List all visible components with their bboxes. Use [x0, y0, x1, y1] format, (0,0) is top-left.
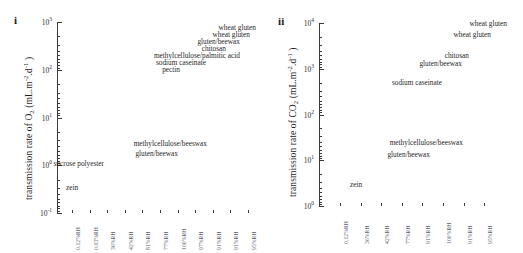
y-axis-tick-minor — [320, 91, 322, 92]
y-axis-tick-minor — [320, 62, 322, 63]
y-axis-tick-major — [320, 69, 324, 70]
y-axis-tick-minor — [320, 182, 322, 183]
x-axis-tick — [361, 203, 362, 206]
y-axis-tick-minor — [320, 142, 322, 143]
data-point-label: methylcellulose/beeswax — [134, 140, 207, 147]
y-axis-tick-minor — [320, 110, 322, 111]
y-axis-tick-major — [58, 22, 62, 23]
y-axis-tick-minor — [58, 202, 60, 203]
x-axis-tick-label: 95%RH — [251, 231, 257, 250]
y-axis-tick-minor — [320, 37, 322, 38]
x-axis-tick — [402, 203, 403, 206]
panel-co2-transmission: ii104103102101100transmission rate of CO… — [262, 0, 523, 253]
y-axis-tick-major — [320, 206, 324, 207]
y-axis-tick-minor — [58, 113, 60, 114]
y-axis-tick-major — [58, 213, 62, 214]
x-axis-tick — [160, 210, 161, 213]
y-axis-tick-minor — [320, 156, 322, 157]
x-axis-tick — [213, 210, 214, 213]
y-axis-tick-minor — [320, 174, 322, 175]
y-axis-tick-minor — [58, 107, 60, 108]
y-axis-tick-minor — [58, 98, 60, 99]
x-axis-tick-label: 36%RH — [110, 231, 116, 250]
y-axis-tick-minor — [58, 103, 60, 104]
y-axis-tick-minor — [320, 112, 322, 113]
figure-container: i10310210110010-1transmission rate of O2… — [0, 0, 523, 253]
y-axis-tick-minor — [58, 199, 60, 200]
y-axis-tick-label: 104 — [292, 18, 314, 27]
x-axis-tick — [381, 203, 382, 206]
x-axis-tick — [178, 210, 179, 213]
y-axis-tick-minor — [58, 36, 60, 37]
y-axis-tick-major — [58, 70, 62, 71]
y-axis-tick-minor — [58, 62, 60, 63]
x-axis-tick-label: 0.12%RH — [343, 221, 349, 244]
y-axis-tick-minor — [320, 153, 322, 154]
y-axis-tick-major — [320, 23, 324, 24]
x-axis-tick — [142, 210, 143, 213]
y-axis-tick-label: 103 — [30, 17, 52, 26]
x-axis-tick-label: 42%RH — [384, 225, 390, 244]
y-axis-tick-minor — [58, 51, 60, 52]
x-axis-tick — [443, 203, 444, 206]
x-axis-tick-label: 100%RH — [446, 223, 452, 244]
x-axis-tick-label: 91%RH — [233, 231, 239, 250]
y-axis-tick-label: 100 — [292, 201, 314, 210]
x-axis-tick — [230, 210, 231, 213]
y-axis-tick-minor — [58, 93, 60, 94]
y-axis-tick-minor — [58, 140, 60, 141]
y-axis-tick-minor — [320, 45, 322, 46]
data-point-label: methylcellulose/beeswax — [390, 139, 463, 146]
y-axis-tick-minor — [58, 59, 60, 60]
data-point-label: pectin — [162, 66, 180, 73]
y-axis-tick-minor — [58, 84, 60, 85]
x-axis-tick-label: 36%RH — [364, 225, 370, 244]
y-axis-tick-minor — [58, 45, 60, 46]
y-axis-tick-minor — [58, 132, 60, 133]
y-axis-tick-major — [320, 160, 324, 161]
y-axis-tick-minor — [320, 107, 322, 108]
x-axis-tick — [248, 210, 249, 213]
y-axis-tick-minor — [58, 110, 60, 111]
data-point-label: zein — [66, 184, 78, 191]
y-axis-tick-minor — [58, 208, 60, 209]
data-point-label: wheat gluten — [470, 20, 508, 27]
y-axis-tick-label: 10-1 — [30, 208, 52, 217]
x-axis-tick — [125, 210, 126, 213]
y-axis-tick-minor — [320, 96, 322, 97]
y-axis-tick-minor — [58, 146, 60, 147]
y-axis-tick-minor — [320, 150, 322, 151]
y-axis-tick-minor — [58, 194, 60, 195]
y-axis-tick-minor — [320, 188, 322, 189]
x-axis-tick-label: 97%RH — [198, 231, 204, 250]
data-point-label: wheat gluten — [454, 31, 492, 38]
x-axis-tick — [464, 203, 465, 206]
x-axis-tick — [72, 210, 73, 213]
y-axis-tick-minor — [320, 64, 322, 65]
y-axis-tick-major — [320, 115, 324, 116]
x-axis-tick-label: 91%RH — [425, 225, 431, 244]
x-axis-tick — [107, 210, 108, 213]
y-axis-tick-minor — [320, 104, 322, 105]
data-point-label: sucrose polyester — [54, 160, 104, 167]
y-axis-tick-minor — [320, 101, 322, 102]
panel-letter: ii — [278, 15, 285, 27]
x-axis-tick-label: 42%RH — [128, 231, 134, 250]
x-axis-tick-label: 0.03%RH — [93, 227, 99, 250]
y-axis-tick-major — [58, 118, 62, 119]
y-axis-tick-minor — [320, 158, 322, 159]
data-point-label: sodium caseinate — [392, 79, 442, 86]
y-axis-tick-minor — [320, 51, 322, 52]
x-axis-tick — [90, 210, 91, 213]
x-axis-tick-label: 81%RH — [145, 231, 151, 250]
x-axis-tick-label: 100%RH — [181, 229, 187, 250]
y-axis-title: transmission rate of CO2 (mL.m-2.d-1 ) — [286, 47, 299, 197]
x-axis-tick-label: 91%RH — [216, 231, 222, 250]
y-axis-tick-minor — [320, 204, 322, 205]
y-axis-tick-minor — [58, 180, 60, 181]
y-axis-tick-minor — [58, 115, 60, 116]
y-axis-tick-minor — [58, 206, 60, 207]
panel-letter: i — [14, 14, 17, 26]
data-point-label: zein — [350, 181, 362, 188]
y-axis-tick-minor — [58, 65, 60, 66]
